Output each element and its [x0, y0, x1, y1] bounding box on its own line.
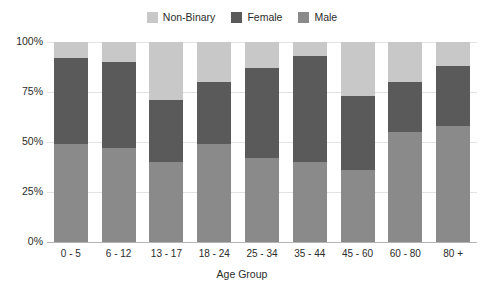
- bar-column[interactable]: [54, 42, 88, 242]
- x-axis-tick-label: 45 - 60: [331, 248, 385, 260]
- x-axis-tick-label: 0 - 5: [44, 248, 98, 260]
- y-axis-tick-label: 25%: [7, 186, 43, 197]
- bar-segment[interactable]: [102, 62, 136, 148]
- y-axis-tick-label: 75%: [7, 86, 43, 97]
- bar-segment[interactable]: [293, 162, 327, 242]
- bar-segment[interactable]: [388, 42, 422, 82]
- bar-segment[interactable]: [436, 66, 470, 126]
- x-axis-title: Age Group: [0, 268, 484, 280]
- bar-segment[interactable]: [102, 42, 136, 62]
- bar-segment[interactable]: [149, 42, 183, 100]
- x-axis-tick-label: 60 - 80: [378, 248, 432, 260]
- bar-segment[interactable]: [54, 144, 88, 242]
- bar-segment[interactable]: [293, 56, 327, 162]
- y-axis-tick-labels: 100%75%50%25%0%: [0, 0, 43, 300]
- bar-segment[interactable]: [197, 82, 231, 144]
- x-axis-tick-label: 18 - 24: [187, 248, 241, 260]
- legend-swatch-icon: [231, 12, 242, 23]
- bar-segment[interactable]: [197, 42, 231, 82]
- x-axis-tick-label: 35 - 44: [283, 248, 337, 260]
- legend-item[interactable]: Non-Binary: [147, 12, 216, 23]
- bar-segment[interactable]: [293, 42, 327, 56]
- bar-column[interactable]: [245, 42, 279, 242]
- plot-area: [47, 42, 477, 242]
- legend-item[interactable]: Female: [231, 12, 282, 23]
- x-axis-line: [47, 242, 477, 243]
- bar-column[interactable]: [388, 42, 422, 242]
- stacked-bar-chart: Non-BinaryFemaleMale 100%75%50%25%0% 0 -…: [0, 0, 484, 300]
- bar-column[interactable]: [293, 42, 327, 242]
- x-axis-tick-label: 6 - 12: [92, 248, 146, 260]
- bar-segment[interactable]: [388, 132, 422, 242]
- legend-item[interactable]: Male: [298, 12, 337, 23]
- bar-segment[interactable]: [54, 42, 88, 58]
- bar-column[interactable]: [102, 42, 136, 242]
- bar-segment[interactable]: [436, 42, 470, 66]
- bar-segment[interactable]: [245, 68, 279, 158]
- bar-segment[interactable]: [102, 148, 136, 242]
- bar-segment[interactable]: [341, 96, 375, 170]
- x-axis-tick-label: 13 - 17: [139, 248, 193, 260]
- bar-column[interactable]: [436, 42, 470, 242]
- legend-swatch-icon: [298, 12, 309, 23]
- bar-segment[interactable]: [245, 42, 279, 68]
- bar-segment[interactable]: [149, 100, 183, 162]
- legend-item-label: Non-Binary: [163, 12, 216, 23]
- y-axis-tick-label: 100%: [7, 36, 43, 47]
- bar-segment[interactable]: [149, 162, 183, 242]
- legend-item-label: Female: [247, 12, 282, 23]
- bar-segment[interactable]: [197, 144, 231, 242]
- y-axis-tick-label: 0%: [7, 236, 43, 247]
- legend-swatch-icon: [147, 12, 158, 23]
- bar-segment[interactable]: [54, 58, 88, 144]
- x-axis-tick-label: 25 - 34: [235, 248, 289, 260]
- bar-column[interactable]: [341, 42, 375, 242]
- bar-segment[interactable]: [341, 170, 375, 242]
- bar-segment[interactable]: [245, 158, 279, 242]
- chart-legend: Non-BinaryFemaleMale: [0, 12, 484, 23]
- legend-item-label: Male: [314, 12, 337, 23]
- y-axis-tick-label: 50%: [7, 136, 43, 147]
- bar-segment[interactable]: [341, 42, 375, 96]
- bar-segment[interactable]: [388, 82, 422, 132]
- bar-segment[interactable]: [436, 126, 470, 242]
- bar-column[interactable]: [149, 42, 183, 242]
- bar-column[interactable]: [197, 42, 231, 242]
- x-axis-tick-label: 80 +: [426, 248, 480, 260]
